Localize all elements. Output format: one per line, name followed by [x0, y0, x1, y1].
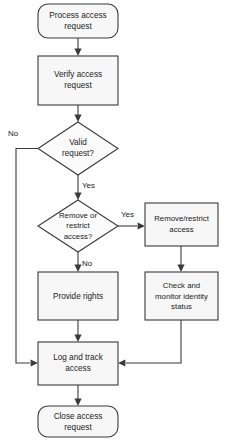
edge-provide-to-log [74, 320, 81, 342]
edge-verify-to-valid [74, 105, 81, 122]
flowchart-canvas: left, down, into Log and track access --… [0, 0, 232, 441]
edge-check-to-log [118, 320, 181, 367]
node-label-close-access-request-line1: Close access [54, 412, 103, 421]
node-close-access-request[interactable]: Close access request [38, 406, 118, 437]
node-label-remove-or-restrict-line2: restrict [66, 221, 90, 230]
node-label-verify-access-request-line1: Verify access [54, 70, 102, 79]
edge-remove-yes-to-removerestrict [118, 222, 145, 229]
node-label-check-monitor-line1: Check and [163, 281, 200, 290]
edge-log-to-close [74, 385, 81, 406]
node-label-remove-restrict-access-line2: access [169, 225, 193, 234]
node-label-valid-request-line1: Valid [69, 138, 87, 147]
node-label-remove-or-restrict-line3: access? [64, 232, 93, 241]
node-label-log-and-track-access-line2: access [65, 364, 90, 373]
edge-label-valid-no: No [8, 129, 19, 138]
flowchart-svg: left, down, into Log and track access --… [0, 0, 232, 441]
node-label-remove-restrict-access-line1: Remove/restrict [154, 214, 209, 223]
edge-label-remove-yes: Yes [121, 210, 134, 219]
edge-removerestrict-to-check [177, 246, 184, 272]
node-label-log-and-track-access-line1: Log and track [53, 353, 104, 362]
edge-label-remove-no: No [82, 259, 93, 268]
node-process-access-request[interactable]: Process access request [38, 4, 118, 38]
node-check-and-monitor-identity-status[interactable]: Check and monitor identity status [145, 272, 218, 320]
node-label-valid-request-line2: request? [62, 149, 94, 158]
edge-valid-yes-to-remove [74, 175, 81, 200]
node-label-remove-or-restrict-line1: Remove or [59, 211, 98, 220]
node-remove-restrict-access[interactable]: Remove/restrict access [145, 203, 218, 246]
node-remove-or-restrict-decision[interactable]: Remove or restrict access? [38, 200, 118, 252]
edge-valid-no-to-log [16, 149, 38, 367]
node-label-provide-rights: Provide rights [53, 292, 103, 301]
node-verify-access-request[interactable]: Verify access request [38, 56, 118, 105]
node-label-check-monitor-line2: monitor identity [155, 292, 208, 301]
edge-label-valid-yes: Yes [82, 181, 95, 190]
node-label-process-access-request-line1: Process access [49, 11, 106, 20]
edge-remove-no-to-provide [74, 252, 81, 272]
node-label-process-access-request-line2: request [64, 22, 92, 31]
node-log-and-track-access[interactable]: Log and track access [38, 342, 118, 385]
node-valid-request-decision[interactable]: Valid request? [38, 122, 118, 175]
node-label-check-monitor-line3: status [171, 302, 192, 311]
node-shape-close-access-request [38, 406, 118, 437]
node-label-close-access-request-line2: request [64, 423, 92, 432]
node-provide-rights[interactable]: Provide rights [38, 272, 118, 320]
node-label-verify-access-request-line2: request [64, 81, 92, 90]
edge-process-to-verify [74, 38, 81, 56]
